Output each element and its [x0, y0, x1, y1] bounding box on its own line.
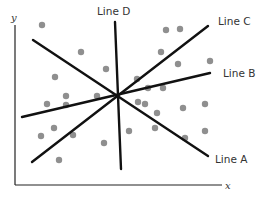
y-axis-label: y	[10, 12, 17, 23]
data-point	[152, 125, 158, 131]
data-point	[202, 101, 208, 107]
data-point	[202, 128, 208, 134]
data-point	[44, 101, 50, 107]
data-point	[52, 74, 58, 80]
line-a-label: Line A	[215, 153, 248, 165]
data-point	[142, 101, 148, 107]
data-point	[175, 61, 181, 67]
data-point	[101, 140, 107, 146]
data-point	[78, 49, 84, 55]
data-point	[158, 49, 164, 55]
data-point	[160, 85, 166, 91]
data-point	[163, 27, 169, 33]
data-point	[135, 99, 141, 105]
data-point	[180, 105, 186, 111]
diagram-canvas: y x Line A Line B Line C Line D	[0, 0, 267, 198]
data-point	[39, 22, 45, 28]
data-point	[126, 128, 132, 134]
data-point	[38, 133, 44, 139]
data-point	[51, 125, 57, 131]
x-axis-label: x	[225, 180, 231, 191]
line-c-label: Line C	[218, 15, 251, 27]
data-point	[56, 157, 62, 163]
data-point	[103, 66, 109, 72]
data-point	[63, 93, 69, 99]
data-point	[177, 26, 183, 32]
line-b-label: Line B	[223, 67, 255, 79]
data-point	[207, 58, 213, 64]
data-point	[154, 110, 160, 116]
line-d-label: Line D	[97, 5, 130, 17]
